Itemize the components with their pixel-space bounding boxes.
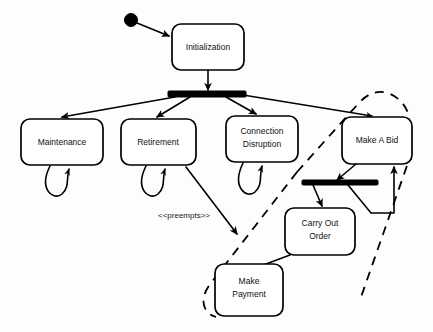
transition-fork-to-connection-disruption (226, 97, 256, 114)
transition-fork2-to-carry-out-order (313, 185, 322, 206)
state-carry-out-order[interactable]: Carry Out Order (285, 208, 355, 255)
state-make-payment[interactable]: Make Payment (215, 264, 283, 316)
transition-fork2-to-make-a-bid (348, 167, 394, 213)
initial-pseudostate (125, 14, 138, 27)
transition-label-preempts: <<preempts>> (158, 211, 210, 220)
fork-bar-make-a-bid (302, 180, 378, 185)
state-connection-disruption-box (226, 116, 298, 162)
state-make-payment-box (215, 264, 283, 316)
state-maintenance-box (21, 119, 103, 165)
state-initialization-box (172, 24, 244, 70)
transition-make-a-bid-to-fork2 (337, 164, 356, 180)
transition-start-to-initialization (137, 23, 169, 36)
statechart-diagram: Initialization Maintenance Retirement (0, 0, 433, 332)
transition-connection-disruption-self (239, 163, 262, 194)
fork-bar-initialization (168, 91, 246, 97)
state-retirement[interactable]: Retirement (121, 119, 196, 165)
transition-fork-to-make-a-bid (243, 95, 372, 116)
state-initialization[interactable]: Initialization (172, 24, 244, 70)
state-carry-out-order-box (285, 208, 355, 255)
transition-retirement-to-make-payment (186, 167, 237, 234)
transition-retirement-self (142, 166, 165, 196)
state-make-a-bid[interactable]: Make A Bid (342, 117, 412, 164)
state-make-a-bid-box (342, 117, 412, 164)
transition-maintenance-self (46, 166, 69, 196)
state-connection-disruption[interactable]: Connection Disruption (226, 116, 298, 162)
transition-fork-to-maintenance (62, 97, 175, 117)
state-maintenance[interactable]: Maintenance (21, 119, 103, 165)
state-retirement-box (121, 119, 196, 165)
diagram-canvas: Initialization Maintenance Retirement (0, 0, 433, 332)
